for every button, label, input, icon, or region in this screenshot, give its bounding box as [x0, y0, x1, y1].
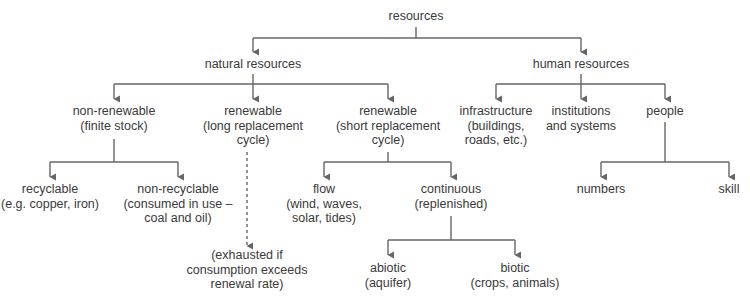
- node-flow: flow (wind, waves, solar, tides): [286, 182, 362, 226]
- node-infrastructure: infrastructure (buildings, roads, etc.): [460, 104, 533, 148]
- node-sublabel: consumption exceeds: [187, 263, 308, 278]
- node-sublabel: (crops, animals): [471, 276, 560, 291]
- node-label: renewable: [336, 104, 440, 119]
- node-skill: skill: [719, 182, 740, 197]
- node-label: recyclable: [1, 182, 99, 197]
- node-resources: resources: [389, 9, 444, 24]
- node-label: abiotic: [365, 261, 412, 276]
- node-exhausted: (exhausted if consumption exceeds renewa…: [187, 248, 308, 292]
- node-human-resources: human resources: [533, 57, 630, 72]
- node-label: numbers: [577, 182, 626, 197]
- node-label: non-renewable: [73, 104, 156, 119]
- node-label: flow: [286, 182, 362, 197]
- node-sublabel: (short replacement: [336, 119, 440, 134]
- node-institutions: institutions and systems: [546, 104, 616, 133]
- node-renewable-long: renewable (long replacement cycle): [203, 104, 303, 148]
- node-sublabel: (consumed in use –: [123, 197, 232, 212]
- node-label: natural resources: [205, 57, 302, 72]
- node-label: skill: [719, 182, 740, 197]
- node-people: people: [646, 104, 684, 119]
- node-label: continuous: [415, 182, 488, 197]
- node-label: human resources: [533, 57, 630, 72]
- node-numbers: numbers: [577, 182, 626, 197]
- node-renewable-short: renewable (short replacement cycle): [336, 104, 440, 148]
- node-label: biotic: [471, 261, 560, 276]
- node-natural-resources: natural resources: [205, 57, 302, 72]
- node-sublabel: (replenished): [415, 197, 488, 212]
- node-label: non-recyclable: [123, 182, 232, 197]
- node-biotic: biotic (crops, animals): [471, 261, 560, 290]
- node-sublabel: (e.g. copper, iron): [1, 197, 99, 212]
- node-label: institutions: [546, 104, 616, 119]
- node-label: resources: [389, 9, 444, 24]
- node-sublabel: cycle): [203, 133, 303, 148]
- node-sublabel: (wind, waves,: [286, 197, 362, 212]
- node-sublabel: roads, etc.): [460, 133, 533, 148]
- node-sublabel: and systems: [546, 119, 616, 134]
- node-sublabel: cycle): [336, 133, 440, 148]
- node-sublabel: renewal rate): [187, 277, 308, 292]
- node-label: renewable: [203, 104, 303, 119]
- node-sublabel: solar, tides): [286, 211, 362, 226]
- node-recyclable: recyclable (e.g. copper, iron): [1, 182, 99, 211]
- node-sublabel: coal and oil): [123, 211, 232, 226]
- node-label: infrastructure: [460, 104, 533, 119]
- node-abiotic: abiotic (aquifer): [365, 261, 412, 290]
- node-continuous: continuous (replenished): [415, 182, 488, 211]
- connector-lines: [0, 0, 750, 299]
- node-non-recyclable: non-recyclable (consumed in use – coal a…: [123, 182, 232, 226]
- node-label: people: [646, 104, 684, 119]
- node-sublabel: (aquifer): [365, 276, 412, 291]
- node-sublabel: (finite stock): [73, 119, 156, 134]
- node-non-renewable: non-renewable (finite stock): [73, 104, 156, 133]
- node-label: (exhausted if: [187, 248, 308, 263]
- node-sublabel: (buildings,: [460, 119, 533, 134]
- resources-tree-diagram: resources natural resources human resour…: [0, 0, 750, 299]
- node-sublabel: (long replacement: [203, 119, 303, 134]
